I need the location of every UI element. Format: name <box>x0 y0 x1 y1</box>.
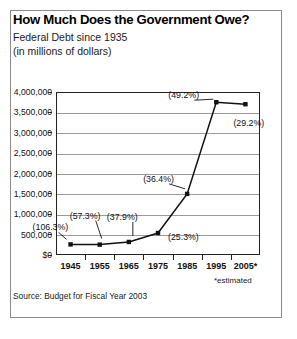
y-axis-tick-label: 2,000,000 <box>14 169 52 179</box>
y-axis-tick-label: 4,000,000 <box>14 87 52 97</box>
x-axis-tick-label: 2005* <box>234 261 258 271</box>
x-axis-tick-label: 1995 <box>206 261 226 271</box>
y-axis-tick-mark <box>48 234 52 235</box>
x-axis-tick-mark <box>114 255 115 260</box>
y-axis-tick-mark <box>48 112 52 113</box>
data-point-marker <box>98 242 102 246</box>
data-point-marker <box>185 192 189 196</box>
annotation-leader-line <box>96 221 102 239</box>
y-axis-tick-mark <box>48 153 52 154</box>
y-axis-tick-label: 2,500,000 <box>14 148 52 158</box>
y-axis-tick-mark <box>48 255 52 256</box>
y-axis-tick-mark <box>48 173 52 174</box>
y-axis-tick-mark <box>48 193 52 194</box>
x-axis-tick-mark <box>202 255 203 260</box>
y-axis-tick-mark <box>48 132 52 133</box>
x-axis-tick-mark <box>85 255 86 260</box>
data-point-marker <box>243 102 247 106</box>
annotation-leader-line <box>59 232 67 239</box>
x-axis-tick-mark <box>231 255 232 260</box>
estimated-footnote: *estimated <box>214 276 252 285</box>
y-axis-tick-label: 1,000,000 <box>14 209 52 219</box>
data-point-marker <box>68 242 72 246</box>
data-point-percent-label: (25.3%) <box>168 232 199 242</box>
data-point-percent-label: (106.3%) <box>33 222 69 232</box>
y-axis-tick-label: 1,500,000 <box>14 189 52 199</box>
data-point-marker <box>214 100 218 104</box>
x-axis-tick-mark <box>173 255 174 260</box>
x-axis-labels: 1945195519651975198519952005* <box>56 261 260 275</box>
data-point-percent-label: (49.2%) <box>168 90 199 100</box>
annotation-leader-line <box>169 184 185 189</box>
data-point-marker <box>127 240 131 244</box>
data-point-percent-label: (37.9%) <box>107 212 138 222</box>
x-axis-tick-label: 1955 <box>90 261 110 271</box>
x-axis-tick-mark <box>143 255 144 260</box>
y-axis-tick-mark <box>48 214 52 215</box>
x-axis-tick-label: 1985 <box>177 261 197 271</box>
data-point-percent-label: (36.4%) <box>143 174 174 184</box>
data-point-percent-label: (57.3%) <box>70 211 101 221</box>
x-axis-tick-label: 1965 <box>119 261 139 271</box>
chart-plot-area: $0500,0001,000,0001,500,0002,000,0002,50… <box>0 0 272 308</box>
data-point-percent-label: (29.2%) <box>233 118 264 128</box>
source-note: Source: Budget for Fiscal Year 2003 <box>13 291 147 301</box>
y-axis-tick-label: 3,500,000 <box>14 107 52 117</box>
data-point-marker <box>156 231 160 235</box>
y-axis-tick-mark <box>48 92 52 93</box>
x-axis-tick-label: 1975 <box>148 261 168 271</box>
x-axis-tick-label: 1945 <box>61 261 81 271</box>
y-axis-tick-label: 3,000,000 <box>14 128 52 138</box>
